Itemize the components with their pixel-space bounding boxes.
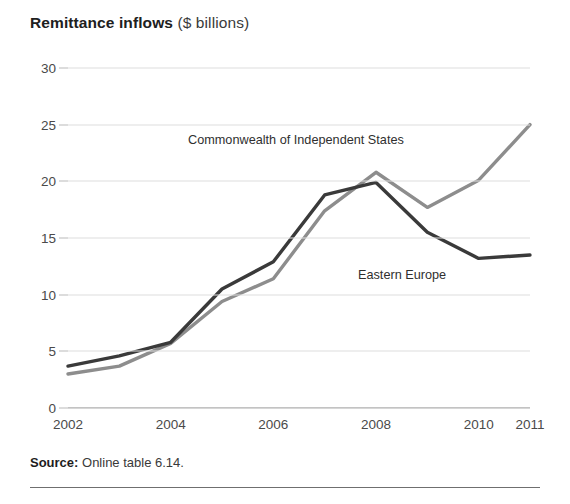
y-axis-label-10: 10: [41, 287, 56, 302]
tickmark-y-20: [59, 181, 68, 182]
tickmark-y-15: [59, 238, 68, 239]
chart-area: 051015202530200220042006200820102011 Com…: [0, 50, 570, 440]
source-label: Source:: [30, 455, 78, 470]
footer-divider: [30, 487, 540, 488]
plot-area: 051015202530200220042006200820102011: [68, 68, 530, 408]
y-axis-label-20: 20: [41, 174, 56, 189]
title-units: ($ billions): [173, 14, 249, 31]
tickmark-y-0: [59, 408, 68, 409]
x-axis-label-2006: 2006: [258, 417, 288, 432]
gridline-y-0: [68, 407, 530, 408]
tickmark-y-30: [59, 68, 68, 69]
x-axis-label-2008: 2008: [361, 417, 391, 432]
y-axis-label-15: 15: [41, 231, 56, 246]
tickmark-y-10: [59, 294, 68, 295]
gridline-y-15: [68, 238, 530, 239]
gridline-y-30: [68, 68, 530, 69]
x-axis-label-2010: 2010: [464, 417, 494, 432]
x-axis-label-2004: 2004: [156, 417, 186, 432]
source-note: Source: Online table 6.14.: [30, 455, 184, 470]
gridline-y-10: [68, 294, 530, 295]
y-axis-label-5: 5: [48, 344, 56, 359]
series-label-cis: Commonwealth of Independent States: [188, 133, 404, 147]
title-main: Remittance inflows: [30, 14, 173, 31]
chart-figure: Remittance inflows ($ billions) 05101520…: [0, 0, 570, 504]
y-axis-label-25: 25: [41, 117, 56, 132]
series-label-eastern-europe: Eastern Europe: [358, 268, 446, 282]
tickmark-y-25: [59, 124, 68, 125]
tickmark-y-5: [59, 351, 68, 352]
gridline-y-25: [68, 124, 530, 125]
y-axis-label-30: 30: [41, 61, 56, 76]
gridline-y-5: [68, 351, 530, 352]
x-axis-label-2002: 2002: [53, 417, 83, 432]
gridline-y-20: [68, 181, 530, 182]
source-text: Online table 6.14.: [78, 455, 184, 470]
page-title: Remittance inflows ($ billions): [30, 14, 249, 32]
y-axis-label-0: 0: [48, 401, 56, 416]
x-axis-label-2011: 2011: [515, 417, 544, 432]
line-eastern-europe: [68, 182, 530, 366]
